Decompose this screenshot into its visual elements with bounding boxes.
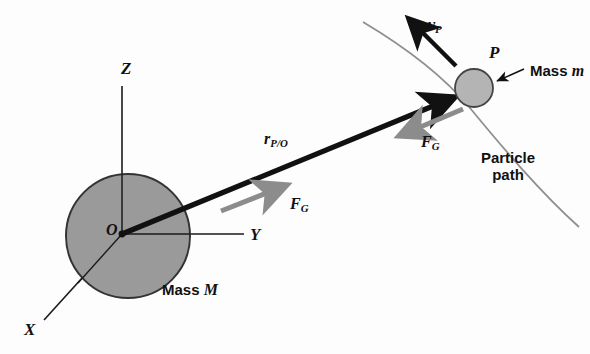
velocity-vector-label: vP [428,17,442,35]
force-on-central-symbol: F [290,195,301,212]
particle-path-curve [363,22,579,227]
y-axis-label: Y [250,226,260,243]
particle-point-label: P [489,44,499,61]
particle-mass-prefix: Mass [530,62,568,79]
particle-path-line-1: Particle [473,150,543,167]
central-mass-label: Mass M [162,282,218,298]
particle-mass-symbol: m [572,62,584,79]
force-on-particle-subscript: G [432,140,440,152]
mass-m-leader-arrow [497,69,524,81]
particle-path-line-2: path [473,167,543,184]
z-axis-label: Z [121,60,131,77]
force-on-central-label: FG [290,196,309,214]
force-on-central-subscript: G [301,202,309,214]
position-vector-arrow [122,97,455,234]
force-on-particle-label: FG [421,134,440,152]
position-vector-subscript: P/O [270,137,288,149]
position-vector-label: rP/O [264,131,288,149]
origin-label: O [106,222,118,238]
particle-path-annotation: Particle path [473,150,543,184]
particle-sphere [455,69,493,107]
central-mass-prefix: Mass [162,281,200,298]
central-body-sphere [66,174,190,298]
gravitation-diagram: Z Y X O rP/O vP FG FG P Mass m Mass M Pa… [0,0,590,354]
force-on-particle-arrow [399,109,463,136]
force-on-particle-symbol: F [421,133,432,150]
velocity-vector-subscript: P [435,23,442,35]
x-axis-label: X [24,321,35,338]
particle-mass-label: Mass m [530,63,584,79]
central-mass-symbol: M [204,281,218,298]
